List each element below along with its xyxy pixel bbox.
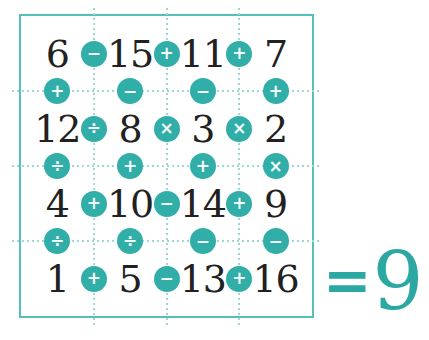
operator-minus-icon: − <box>81 41 107 67</box>
grid-number: 7 <box>264 35 287 73</box>
operator-plus-icon: + <box>117 153 143 179</box>
result: = 9 <box>323 238 427 326</box>
operator-times-icon: × <box>263 153 289 179</box>
operator-minus-icon: − <box>154 266 180 292</box>
operator-plus-icon: + <box>44 78 70 104</box>
grid-number: 13 <box>180 260 226 298</box>
operator-plus-icon: + <box>263 78 289 104</box>
equals-sign: = <box>323 251 372 309</box>
operator-minus-icon: − <box>190 228 216 254</box>
operator-minus-icon: − <box>263 228 289 254</box>
grid-number: 8 <box>119 110 142 148</box>
operator-minus-icon: − <box>117 78 143 104</box>
grid-number: 15 <box>107 35 153 73</box>
puzzle-grid: 6 15 11 7 12 8 3 2 4 10 14 9 1 5 13 16 −… <box>19 14 314 318</box>
grid-number: 2 <box>264 110 287 148</box>
grid-number: 9 <box>264 185 287 223</box>
operator-plus-icon: + <box>226 41 252 67</box>
grid-number: 16 <box>252 260 298 298</box>
operator-divide-icon: ÷ <box>44 228 70 254</box>
grid-number: 12 <box>34 110 80 148</box>
operator-divide-icon: ÷ <box>117 228 143 254</box>
operator-times-icon: × <box>226 116 252 142</box>
operator-minus-icon: − <box>190 78 216 104</box>
operator-minus-icon: − <box>154 191 180 217</box>
operator-plus-icon: + <box>226 191 252 217</box>
operator-divide-icon: ÷ <box>44 153 70 179</box>
operator-plus-icon: + <box>81 191 107 217</box>
grid-number: 11 <box>180 35 226 73</box>
grid-number: 1 <box>46 260 69 298</box>
puzzle-page: 6 15 11 7 12 8 3 2 4 10 14 9 1 5 13 16 −… <box>0 0 429 340</box>
operator-plus-icon: + <box>81 266 107 292</box>
operator-plus-icon: + <box>154 41 180 67</box>
grid-number: 14 <box>180 185 226 223</box>
grid-number: 3 <box>191 110 214 148</box>
operator-divide-icon: ÷ <box>81 116 107 142</box>
grid-number: 4 <box>46 185 69 223</box>
grid-number: 5 <box>119 260 142 298</box>
grid-number: 10 <box>107 185 153 223</box>
operator-plus-icon: + <box>190 153 216 179</box>
operator-times-icon: × <box>154 116 180 142</box>
result-value: 9 <box>373 242 424 322</box>
operator-plus-icon: + <box>226 266 252 292</box>
grid-number: 6 <box>46 35 69 73</box>
